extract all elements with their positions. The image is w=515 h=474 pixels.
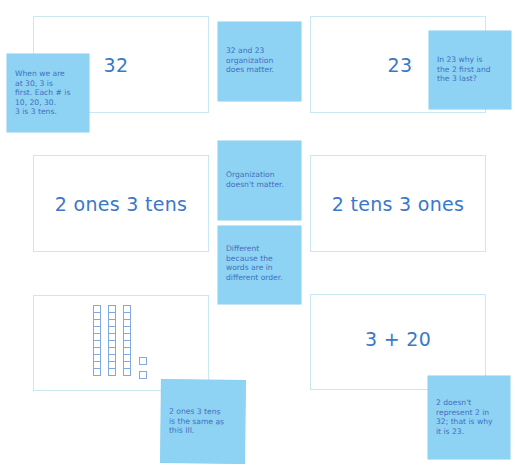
card-3-plus-20-text: 3 + 20 [365, 328, 431, 350]
sticky-note-text: When we are at 30, 3 is first. Each # is… [15, 69, 70, 117]
card-base-ten-blocks [33, 295, 209, 391]
ones-cube [139, 357, 147, 365]
sticky-note-text: 2 doesn't represent 2 in 32; that is why… [436, 398, 492, 436]
sticky-note-text: Different because the words are in diffe… [226, 244, 283, 282]
card-23-text: 23 [388, 54, 413, 76]
sticky-note-same-as-this: 2 ones 3 tens is the same as this III. [161, 380, 246, 464]
sticky-note-text: Organization doesn't matter. [226, 170, 284, 189]
card-2-tens-3-ones: 2 tens 3 ones [310, 155, 486, 252]
sticky-note-why-2-first: In 23 why is the 2 first and the 3 last? [429, 31, 511, 109]
tens-rod [93, 305, 101, 376]
sticky-note-when-at-30: When we are at 30, 3 is first. Each # is… [7, 54, 89, 132]
sticky-note-text: In 23 why is the 2 first and the 3 last? [437, 55, 491, 84]
card-2-ones-3-tens: 2 ones 3 tens [33, 155, 209, 252]
sticky-note-text: 32 and 23 organization does matter. [226, 46, 274, 75]
sticky-note-text: 2 ones 3 tens is the same as this III. [169, 407, 224, 436]
tens-rod [108, 305, 116, 376]
ones-cube [139, 371, 147, 379]
card-2-tens-3-ones-text: 2 tens 3 ones [332, 193, 465, 215]
card-2-ones-3-tens-text: 2 ones 3 tens [55, 193, 188, 215]
sticky-note-organization-doesnt-matter: Organization doesn't matter. [218, 141, 301, 220]
card-32-text: 32 [104, 54, 129, 76]
sticky-note-different-order: Different because the words are in diffe… [218, 226, 301, 304]
tens-rod [123, 305, 131, 376]
sticky-note-organization-matters: 32 and 23 organization does matter. [218, 22, 301, 101]
sticky-note-2-doesnt-represent: 2 doesn't represent 2 in 32; that is why… [428, 376, 510, 459]
